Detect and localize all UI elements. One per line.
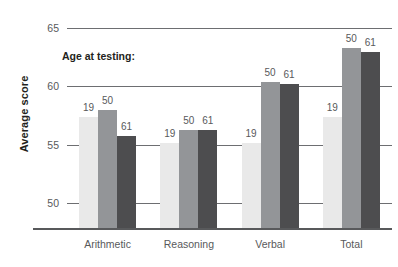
y-axis-title: Average score <box>18 44 30 184</box>
x-axis-label-total: Total <box>311 238 392 250</box>
x-axis-baseline <box>33 228 392 230</box>
bar-verbal-age-50: 50 <box>261 82 280 228</box>
bar-reasoning-age-61: 61 <box>198 130 217 228</box>
bar-series-label: 50 <box>265 68 276 78</box>
bar-reasoning-age-50: 50 <box>179 130 198 228</box>
bar-arithmetic-age-50: 50 <box>98 110 117 228</box>
bar-group: 195061 <box>148 0 229 228</box>
bar-series-label: 50 <box>102 96 113 106</box>
bar-series-label: 61 <box>365 38 376 48</box>
x-axis-label-reasoning: Reasoning <box>148 238 229 250</box>
bar-group-bars: 195061 <box>311 0 392 228</box>
bar-group-bars: 195061 <box>148 0 229 228</box>
bar-series-label: 50 <box>346 34 357 44</box>
bar-arithmetic-age-61: 61 <box>117 136 136 228</box>
bar-reasoning-age-19: 19 <box>160 143 179 228</box>
bar-group: 195061 <box>311 0 392 228</box>
y-axis-tick-label: 55 <box>33 140 59 151</box>
bar-verbal-age-61: 61 <box>280 84 299 228</box>
bar-arithmetic-age-19: 19 <box>79 117 98 228</box>
bar-group: 195061 <box>67 0 148 228</box>
bar-series-label: 61 <box>284 70 295 80</box>
bar-series-label: 19 <box>83 103 94 113</box>
bar-group-bars: 195061 <box>67 0 148 228</box>
bar-series-label: 50 <box>183 116 194 126</box>
x-axis-label-arithmetic: Arithmetic <box>67 238 148 250</box>
bar-series-label: 61 <box>121 122 132 132</box>
bar-total-age-61: 61 <box>361 52 380 228</box>
y-axis-tick-label: 50 <box>33 198 59 209</box>
bar-total-age-50: 50 <box>342 48 361 228</box>
bar-group: 195061 <box>230 0 311 228</box>
bar-series-label: 19 <box>164 129 175 139</box>
y-axis-tick-label: 60 <box>33 81 59 92</box>
plot-area: 195061195061195061195061 <box>67 0 392 228</box>
bar-chart: Average score 50556065 Age at testing: 1… <box>0 0 398 267</box>
bar-verbal-age-19: 19 <box>242 143 261 228</box>
bar-series-label: 61 <box>202 116 213 126</box>
bar-series-label: 19 <box>246 129 257 139</box>
bar-group-bars: 195061 <box>230 0 311 228</box>
bar-series-label: 19 <box>327 103 338 113</box>
y-axis-tick-label: 65 <box>33 23 59 34</box>
bar-total-age-19: 19 <box>323 117 342 228</box>
x-axis-label-verbal: Verbal <box>230 238 311 250</box>
